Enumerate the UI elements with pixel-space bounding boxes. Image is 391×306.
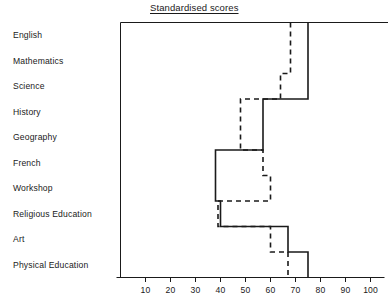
x-axis-tick-label: 70: [282, 286, 310, 295]
category-label: Art: [13, 235, 24, 244]
category-label: Mathematics: [13, 57, 63, 66]
category-label: Workshop: [13, 184, 53, 193]
category-label: Geography: [13, 133, 57, 142]
x-axis-tick-label: 10: [132, 286, 160, 295]
x-axis-tick-label: 30: [182, 286, 210, 295]
category-label: Physical Education: [13, 261, 88, 270]
chart-container: Standardised scores EnglishMathematicsSc…: [0, 0, 391, 306]
category-label: Science: [13, 82, 45, 91]
x-axis-tick-label: 80: [307, 286, 335, 295]
x-axis-tick-label: 40: [207, 286, 235, 295]
category-label: English: [13, 31, 42, 40]
x-axis-tick-label: 50: [232, 286, 260, 295]
category-label: Religious Education: [13, 210, 92, 219]
x-axis-tick-label: 100: [357, 286, 385, 295]
category-label: History: [13, 108, 41, 117]
x-axis-tick-label: 60: [257, 286, 285, 295]
category-label: French: [13, 159, 41, 168]
x-axis-tick-label: 20: [157, 286, 185, 295]
x-axis-tick-label: 90: [332, 286, 360, 295]
